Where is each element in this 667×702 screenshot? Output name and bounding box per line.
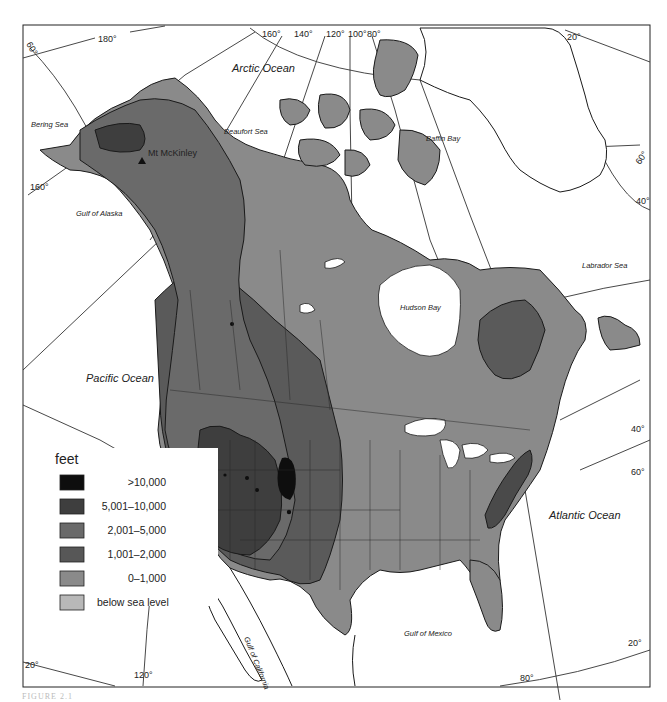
legend-label: 2,001–5,000 <box>108 524 167 536</box>
deg-label: 160° <box>262 29 281 39</box>
peak-label: Mt McKinley <box>148 148 198 158</box>
figure-caption: FIGURE 2.1 <box>22 692 73 701</box>
legend-swatch <box>60 571 84 586</box>
deg-label: 40° <box>631 424 645 434</box>
legend-label: 5,001–10,000 <box>102 500 166 512</box>
deg-label: 60° <box>631 467 645 477</box>
legend-title: feet <box>55 451 78 467</box>
sea-label-baffin: Baffin Bay <box>426 134 461 143</box>
ocean-label-pacific: Pacific Ocean <box>86 372 154 384</box>
legend-label: 1,001–2,000 <box>108 548 167 560</box>
sea-label-hudson: Hudson Bay <box>400 303 442 312</box>
sea-label-alaska: Gulf of Alaska <box>76 209 122 218</box>
legend-swatch <box>60 523 84 538</box>
legend-swatch <box>60 475 84 490</box>
ocean-label-arctic: Arctic Ocean <box>231 62 295 74</box>
sea-label-mexico: Gulf of Mexico <box>404 629 452 638</box>
legend-swatch <box>60 499 84 514</box>
deg-label: 80° <box>520 673 534 683</box>
elevation-5001-10000-alaska <box>95 123 145 152</box>
deg-label: 20° <box>567 32 581 42</box>
legend-label: >10,000 <box>128 476 166 488</box>
deg-label: 20° <box>628 638 642 648</box>
deg-label: 160° <box>30 182 49 192</box>
legend-label: 0–1,000 <box>128 572 166 584</box>
relief-map: Mt McKinley Arctic Ocean Pacific Ocean A… <box>0 0 667 702</box>
legend-swatch <box>60 547 84 562</box>
ocean-label-atlantic: Atlantic Ocean <box>548 509 621 521</box>
legend: feet >10,0005,001–10,0002,001–5,0001,001… <box>48 448 218 610</box>
deg-label: 100° <box>348 29 367 39</box>
sea-label-labrador: Labrador Sea <box>582 261 627 270</box>
deg-label: 40° <box>636 196 650 206</box>
sea-label-bering: Bering Sea <box>31 120 68 129</box>
legend-swatch <box>60 595 84 610</box>
deg-label: 80° <box>367 29 381 39</box>
deg-label: 140° <box>294 29 313 39</box>
deg-label: 120° <box>134 670 153 680</box>
legend-label: below sea level <box>97 596 169 608</box>
sea-label-beaufort: Beaufort Sea <box>224 127 268 136</box>
deg-label: 20° <box>25 660 39 670</box>
deg-label: 180° <box>98 34 117 44</box>
deg-label: 120° <box>326 29 345 39</box>
